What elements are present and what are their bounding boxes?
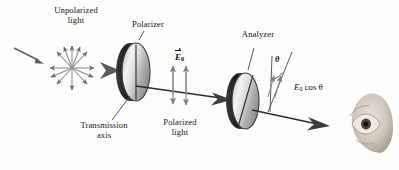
polarized-light-ray xyxy=(136,86,232,105)
transmitted-light-double-arrows xyxy=(268,76,281,97)
outgoing-light-ray xyxy=(252,110,330,131)
analyzer-disc xyxy=(226,48,259,129)
e-field-subscript: 0 xyxy=(181,55,184,62)
label-e-field-vector: E0 xyxy=(175,52,184,62)
label-polarized-light: Polarized light xyxy=(149,118,211,137)
diagram-svg xyxy=(0,0,399,170)
label-unpolarized-light: Unpolarized light xyxy=(34,6,118,25)
polarized-light-double-arrows xyxy=(173,66,186,105)
label-transmission-axis: Transmission axis xyxy=(62,121,146,140)
label-analyzer: Analyzer xyxy=(228,30,288,40)
transmitted-amplitude-suffix: cos θ xyxy=(302,82,322,92)
label-polarizer: Polarizer xyxy=(117,20,179,30)
observer-eye xyxy=(350,94,393,153)
label-transmitted-amplitude: E0 cos θ xyxy=(294,82,323,92)
figure-canvas: Unpolarized light Polarizer Analyzer Tra… xyxy=(0,0,399,170)
polarizer-disc xyxy=(112,31,150,120)
angle-theta-construction xyxy=(268,52,292,112)
incoming-light-ray xyxy=(14,48,44,64)
e-field-letter: E xyxy=(175,52,181,62)
unpolarized-light-starburst xyxy=(50,46,94,90)
label-theta-angle: θ xyxy=(275,55,279,64)
